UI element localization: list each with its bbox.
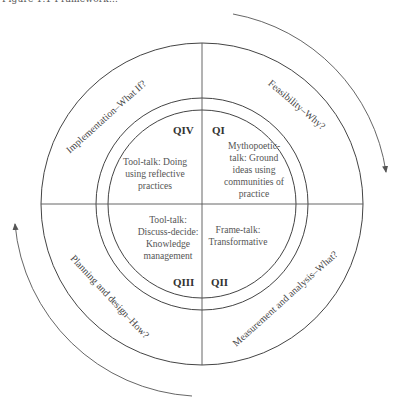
q3-line: Tool-talk: (126, 214, 210, 226)
q3-line: management (126, 250, 210, 262)
q1-line: practice (212, 188, 296, 200)
q2-line: Transformative (204, 236, 272, 248)
q1-line: talk: Ground (212, 152, 296, 164)
diagram-graphics (0, 0, 399, 408)
cycle-diagram: Figure 1.1 Framework... QIV QI QIII QII … (0, 0, 399, 408)
quadrant-label-q4: QIV (173, 124, 194, 136)
quadrant-label-q2: QII (211, 276, 228, 288)
q1-line: Mythopoetic- (212, 140, 296, 152)
quadrant-body-q2: Frame-talk: Transformative (204, 224, 272, 248)
q3-line: Knowledge (126, 238, 210, 250)
q4-line: using reflective (110, 168, 200, 180)
q1-line: communities of (212, 176, 296, 188)
q4-line: practices (110, 180, 200, 192)
q3-line: Discuss-decide: (126, 226, 210, 238)
quadrant-body-q1: Mythopoetic- talk: Ground ideas using co… (212, 140, 296, 200)
q2-line: Frame-talk: (204, 224, 272, 236)
quadrant-label-q1: QI (212, 124, 225, 136)
q1-line: ideas using (212, 164, 296, 176)
quadrant-label-q3: QIII (173, 276, 194, 288)
quadrant-body-q3: Tool-talk: Discuss-decide: Knowledge man… (126, 214, 210, 262)
q4-line: Tool-talk: Doing (110, 156, 200, 168)
quadrant-body-q4: Tool-talk: Doing using reflective practi… (110, 156, 200, 192)
